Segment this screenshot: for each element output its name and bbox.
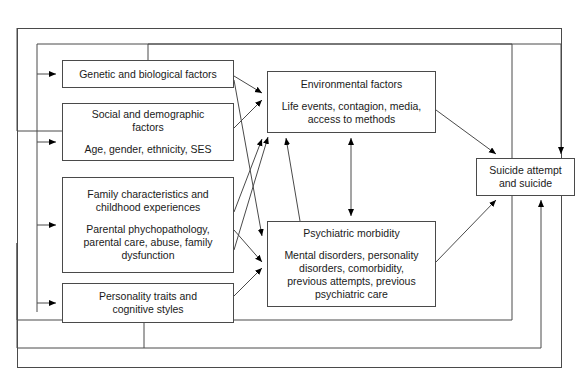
node-family-detail: Parental phychopathology, parental care,… xyxy=(84,223,213,262)
node-genetic[interactable]: Genetic and biological factors xyxy=(62,60,234,88)
node-social[interactable]: Social and demographic factors Age, gend… xyxy=(62,103,234,161)
node-social-detail: Age, gender, ethnicity, SES xyxy=(84,143,211,156)
edge-personality-to-psychiatric xyxy=(234,268,262,296)
node-psychiatric-detail: Mental disorders, personality disorders,… xyxy=(284,249,418,301)
node-suicide[interactable]: Suicide attempt and suicide xyxy=(476,158,575,196)
node-social-title: Social and demographic factors xyxy=(92,108,205,134)
node-personality-title: Personality traits and cognitive styles xyxy=(99,290,197,316)
edge-family-to-environmental-b xyxy=(234,137,268,250)
node-family-title: Family characteristics and childhood exp… xyxy=(87,188,208,214)
edge-genetic-to-environmental xyxy=(234,76,262,93)
node-genetic-title: Genetic and biological factors xyxy=(79,68,217,81)
node-suicide-title: Suicide attempt and suicide xyxy=(489,164,561,190)
node-personality[interactable]: Personality traits and cognitive styles xyxy=(62,283,234,323)
feedback-route-outer-left xyxy=(17,28,62,131)
edge-environmental-to-suicide xyxy=(436,110,496,154)
edge-genetic-to-psychiatric xyxy=(234,80,262,236)
edge-psychiatric-to-environmental-left xyxy=(286,138,300,221)
node-family[interactable]: Family characteristics and childhood exp… xyxy=(62,177,234,273)
node-psychiatric-title: Psychiatric morbidity xyxy=(303,227,399,240)
node-environmental[interactable]: Environmental factors Life events, conta… xyxy=(267,71,436,133)
node-environmental-title: Environmental factors xyxy=(301,78,403,91)
node-environmental-detail: Life events, contagion, media, access to… xyxy=(282,100,422,126)
edge-psychiatric-to-suicide xyxy=(436,200,496,262)
edge-family-to-environmental xyxy=(234,139,262,212)
diagram-canvas: Genetic and biological factors Social an… xyxy=(0,0,579,388)
node-psychiatric[interactable]: Psychiatric morbidity Mental disorders, … xyxy=(267,221,436,307)
